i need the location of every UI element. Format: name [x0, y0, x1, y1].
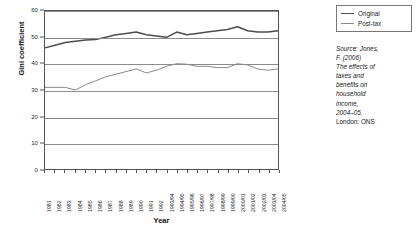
legend-item[interactable]: Post-tax — [341, 19, 408, 28]
x-tick-mark — [95, 170, 96, 173]
x-tick-mark — [248, 170, 249, 173]
x-tick-label: 1982 — [56, 200, 62, 212]
x-tick-mark — [116, 170, 117, 173]
source-note: Source: Jones, F. (2006) The effects of … — [336, 44, 416, 126]
x-tick-mark — [228, 170, 229, 173]
legend-item[interactable]: Original — [341, 9, 408, 18]
x-tick-label: 2004/05 — [281, 193, 287, 212]
legend-swatch — [341, 23, 354, 24]
y-tick-label: 60 — [31, 7, 38, 13]
source-line-7: income, — [336, 100, 358, 107]
source-line-5: benefits on — [336, 81, 367, 88]
x-tick-label: 1999/00 — [230, 193, 236, 212]
x-tick-mark — [64, 170, 65, 173]
x-tick-label: 1995/96 — [189, 193, 195, 212]
x-tick-label: 2001/02 — [250, 193, 256, 212]
y-tick-label: 30 — [31, 87, 38, 93]
x-tick-mark — [146, 170, 147, 173]
x-tick-label: 2000/01 — [240, 193, 246, 212]
x-tick-mark — [156, 170, 157, 173]
x-tick-mark — [197, 170, 198, 173]
y-tick-label: 20 — [31, 114, 38, 120]
plot-area — [44, 10, 279, 170]
x-tick-mark — [207, 170, 208, 173]
x-tick-label: 1998/99 — [220, 193, 226, 212]
x-tick-mark — [177, 170, 178, 173]
y-axis: 0102030405060 — [0, 10, 44, 170]
x-tick-mark — [126, 170, 127, 173]
x-tick-label: 1984 — [77, 200, 83, 212]
x-tick-label: 1983 — [66, 200, 72, 212]
source-line-3: The effects of — [336, 63, 375, 70]
x-tick-mark — [44, 170, 45, 173]
x-tick-label: 1991 — [148, 200, 154, 212]
x-tick-label: 1986 — [97, 200, 103, 212]
legend-label: Post-tax — [358, 20, 381, 27]
x-tick-label: 1989 — [128, 200, 134, 212]
source-line-6: household — [336, 90, 366, 97]
gridline — [45, 64, 278, 65]
source-line-4: taxes and — [336, 72, 364, 79]
x-tick-mark — [259, 170, 260, 173]
x-tick-label: 1988 — [118, 200, 124, 212]
source-line-1: Source: Jones, — [336, 45, 379, 52]
x-tick-mark — [279, 170, 280, 173]
x-tick-label: 1987 — [107, 200, 113, 212]
y-tick-label: 10 — [31, 140, 38, 146]
series-line — [45, 64, 278, 90]
source-line-2: F. (2006) — [336, 54, 361, 61]
x-tick-label: 1990 — [138, 200, 144, 212]
y-tick-label: 50 — [31, 34, 38, 40]
x-axis-title: Year — [44, 216, 279, 225]
y-tick-label: 0 — [35, 167, 38, 173]
legend-label: Original — [358, 10, 380, 17]
chart-figure: Gini coefficient 0102030405060 198119821… — [0, 0, 416, 234]
x-tick-label: 1996/97 — [199, 193, 205, 212]
source-line-9: London: ONS — [336, 118, 375, 125]
legend-swatch — [341, 13, 354, 14]
x-tick-label: 1981 — [46, 200, 52, 212]
gridline — [45, 38, 278, 39]
x-tick-mark — [75, 170, 76, 173]
x-tick-mark — [218, 170, 219, 173]
x-tick-label: 2003/04 — [271, 193, 277, 212]
x-tick-label: 1994/95 — [179, 193, 185, 212]
y-tick-label: 40 — [31, 60, 38, 66]
gridline — [45, 11, 278, 12]
gridline — [45, 118, 278, 119]
x-tick-mark — [187, 170, 188, 173]
x-tick-mark — [85, 170, 86, 173]
x-tick-mark — [54, 170, 55, 173]
x-tick-mark — [167, 170, 168, 173]
gridline — [45, 144, 278, 145]
x-tick-mark — [238, 170, 239, 173]
chart-legend: OriginalPost-tax — [336, 5, 412, 32]
x-tick-label: 2002/03 — [261, 193, 267, 212]
x-tick-label: 1997/98 — [209, 193, 215, 212]
x-tick-label: 1985 — [87, 200, 93, 212]
x-tick-label: 1992 — [158, 200, 164, 212]
x-axis: 1981198219831984198519861987198819891990… — [44, 170, 279, 216]
x-tick-mark — [136, 170, 137, 173]
x-tick-label: 1993/94 — [169, 193, 175, 212]
source-line-8: 2004–05. — [336, 109, 363, 116]
x-tick-mark — [269, 170, 270, 173]
x-tick-mark — [105, 170, 106, 173]
gridline — [45, 91, 278, 92]
